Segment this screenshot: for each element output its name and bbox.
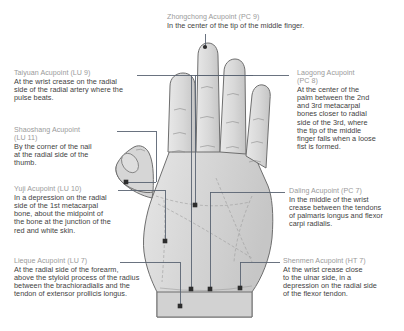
callout-shenmen: Shenmen Acupoint (HT 7) At the wrist cre… <box>283 258 377 299</box>
marker-daling[interactable] <box>208 287 213 292</box>
marker-zhongchong[interactable] <box>203 45 207 49</box>
callout-daling-body: In the middle of the wrist crease betwee… <box>289 196 383 229</box>
marker-shaoshang[interactable] <box>124 180 129 185</box>
callout-zhongchong: Zhongchong Acupoint (PC 9) In the center… <box>167 14 304 30</box>
callout-laogong-body: At the center of the palm between the 2n… <box>297 86 376 151</box>
callout-laogong: Laogong Acupoint (PC 8) At the center of… <box>297 70 376 151</box>
marker-lieque[interactable] <box>178 304 183 309</box>
leader-laogong <box>195 75 289 205</box>
marker-laogong[interactable] <box>193 203 198 208</box>
leader-daling <box>210 192 285 289</box>
leader-shenmen <box>240 262 280 288</box>
callout-zhongchong-body: In the center of the tip of the middle f… <box>167 22 304 30</box>
callout-lieque: Lieque Acupoint (LU 7) At the radial sid… <box>14 258 139 299</box>
callout-daling: Daling Acupoint (PC 7) In the middle of … <box>289 188 383 229</box>
acupoint-chart: Zhongchong Acupoint (PC 9) In the center… <box>0 0 404 331</box>
callout-taiyuan-body: At the wrist crease on the radial side o… <box>14 78 123 103</box>
marker-taiyuan[interactable] <box>189 287 194 292</box>
callout-shenmen-body: At the wrist crease close to the ulnar s… <box>283 266 377 299</box>
callout-lieque-body: At the radial side of the forearm, above… <box>14 266 139 299</box>
marker-shenmen[interactable] <box>238 286 243 291</box>
acupoint-markers <box>124 45 243 308</box>
callout-yuji: Yuji Acupoint (LU 10) In a depression on… <box>14 186 111 235</box>
leader-yuji <box>118 190 165 241</box>
leader-shaoshang <box>117 131 156 182</box>
callout-shaoshang-body: By the corner of the nail at the radial … <box>14 143 92 168</box>
marker-yuji[interactable] <box>163 239 168 244</box>
callout-taiyuan: Taiyuan Acupoint (LU 9) At the wrist cre… <box>14 70 123 102</box>
callout-shaoshang: Shaoshang Acupoint (LU 11) By the corner… <box>14 127 92 167</box>
callout-yuji-body: In a depression on the radial side of th… <box>14 194 111 235</box>
